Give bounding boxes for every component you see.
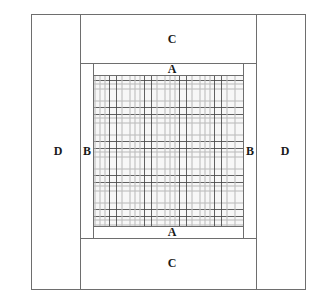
label-bottom-a: A [168, 226, 177, 238]
label-top-a: A [168, 63, 177, 75]
label-right-d: D [281, 145, 290, 157]
label-bottom-c: C [168, 257, 177, 269]
label-left-d: D [54, 145, 63, 157]
label-top-c: C [168, 33, 177, 45]
label-right-b: B [246, 145, 254, 157]
label-left-b: B [83, 145, 91, 157]
region-center-plaid [93, 75, 244, 227]
quilt-diagram: C A D B B D A C [0, 0, 321, 297]
